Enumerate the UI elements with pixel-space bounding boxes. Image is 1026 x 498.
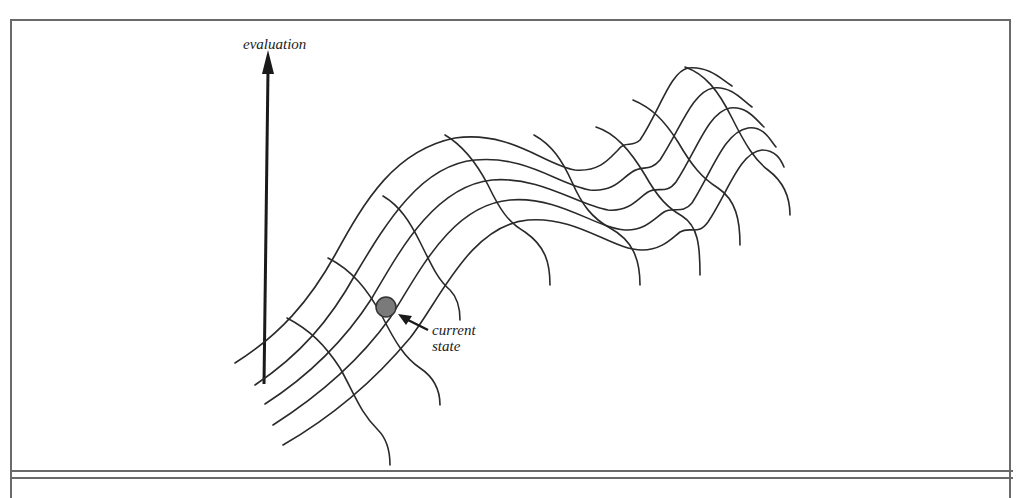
evaluation-axis-arrow: [262, 50, 274, 384]
cross-curve-4: [445, 135, 550, 285]
current-state-label-line1: current: [432, 323, 476, 338]
current-state-label-line2: state: [432, 339, 460, 354]
search-landscape-diagram: [0, 0, 1026, 498]
ridge-curve-5: [283, 150, 784, 445]
evaluation-axis-label: evaluation: [243, 37, 306, 52]
ridge-curves: [235, 68, 784, 445]
cross-curve-8: [685, 67, 790, 215]
ridge-curve-1: [235, 68, 732, 363]
cross-curve-6: [596, 127, 700, 275]
ridge-curve-4: [273, 128, 776, 425]
cross-curve-1: [287, 318, 390, 465]
ridge-curve-2: [255, 88, 752, 385]
current-state-marker: [376, 297, 396, 317]
cross-curve-5: [534, 135, 640, 285]
cross-curves: [287, 67, 790, 465]
cross-curve-2: [328, 258, 440, 405]
ridge-curve-3: [265, 108, 764, 404]
current-state-pointer-arrow: [398, 314, 428, 330]
